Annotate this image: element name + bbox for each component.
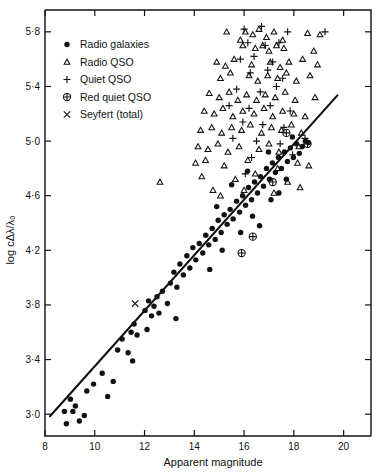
point-radio-galaxy xyxy=(100,370,105,375)
point-radio-qso xyxy=(221,163,227,168)
point-radio-qso xyxy=(311,48,317,53)
point-radio-qso xyxy=(282,89,288,94)
point-radio-galaxy xyxy=(73,403,78,408)
point-quiet-qso xyxy=(64,76,71,83)
y-tick-label: 3·8 xyxy=(26,299,41,310)
point-radio-qso xyxy=(286,59,292,64)
y-tick-label: 4·6 xyxy=(26,190,41,201)
point-radio-qso xyxy=(232,176,238,181)
point-radio-qso xyxy=(245,157,251,162)
point-radio-qso xyxy=(250,32,256,37)
point-radio-galaxy xyxy=(64,42,69,47)
point-radio-qso xyxy=(219,130,225,135)
point-radio-galaxy xyxy=(193,257,198,262)
point-radio-galaxy xyxy=(156,310,161,315)
point-radio-qso xyxy=(198,127,204,132)
point-radio-galaxy xyxy=(115,347,120,352)
point-radio-galaxy xyxy=(197,241,202,246)
point-radio-galaxy xyxy=(290,134,295,139)
point-radio-galaxy xyxy=(125,350,130,355)
point-radio-galaxy xyxy=(174,284,179,289)
point-radio-galaxy xyxy=(221,212,226,217)
point-radio-qso xyxy=(255,78,261,83)
point-radio-qso xyxy=(315,62,321,67)
y-tick-label: 5·4 xyxy=(26,81,41,92)
point-radio-qso xyxy=(211,111,217,116)
point-radio-galaxy xyxy=(184,253,189,258)
point-radio-galaxy xyxy=(243,203,248,208)
fit-line xyxy=(50,95,337,416)
x-tick-label: 12 xyxy=(139,441,151,452)
point-radio-galaxy xyxy=(203,233,208,238)
point-radio-galaxy xyxy=(190,245,195,250)
point-radio-qso xyxy=(247,122,253,127)
point-radio-qso xyxy=(224,29,230,34)
point-radio-qso xyxy=(218,75,224,80)
point-radio-qso xyxy=(293,78,299,83)
point-quiet-qso xyxy=(233,86,240,93)
point-radio-qso xyxy=(288,122,294,127)
point-radio-galaxy xyxy=(151,304,156,309)
point-radio-qso xyxy=(271,190,277,195)
y-tick-label: 5·0 xyxy=(26,136,41,147)
point-radio-galaxy xyxy=(229,182,234,187)
point-radio-qso xyxy=(269,125,275,130)
y-axis-ticks: 3·03·43·84·24·65·05·45·8 xyxy=(26,26,371,419)
point-radio-qso xyxy=(246,73,252,78)
point-radio-galaxy xyxy=(238,230,243,235)
y-tick-label: 5·8 xyxy=(26,26,41,37)
y-tick-label: 3·4 xyxy=(26,354,41,365)
point-radio-galaxy xyxy=(144,327,149,332)
point-radio-qso xyxy=(256,146,262,151)
point-seyfert xyxy=(132,300,138,306)
point-radio-galaxy xyxy=(214,204,219,209)
point-radio-galaxy xyxy=(234,198,239,203)
point-radio-galaxy xyxy=(224,222,229,227)
point-radio-galaxy xyxy=(105,394,110,399)
point-radio-qso xyxy=(276,149,282,154)
point-quiet-qso xyxy=(237,56,244,63)
point-quiet-qso xyxy=(251,53,258,60)
point-radio-qso xyxy=(317,32,323,37)
point-radio-galaxy xyxy=(246,185,251,190)
point-radio-galaxy xyxy=(181,272,186,277)
point-quiet-qso xyxy=(253,138,260,145)
point-radio-galaxy xyxy=(252,179,257,184)
point-radio-qso xyxy=(264,34,270,39)
point-radio-galaxy xyxy=(255,190,260,195)
y-axis-title: log cΔλ/λ₀ xyxy=(4,215,16,264)
point-radio-galaxy xyxy=(218,230,223,235)
series-seyfert-total- xyxy=(132,300,138,306)
point-radio-qso xyxy=(206,90,212,95)
point-radio-galaxy xyxy=(171,269,176,274)
point-quiet-qso xyxy=(257,88,264,95)
point-radio-qso xyxy=(302,114,308,119)
point-radio-qso xyxy=(240,108,246,113)
point-radio-qso xyxy=(266,141,272,146)
point-radio-qso xyxy=(305,30,311,35)
point-radio-qso xyxy=(292,97,298,102)
point-radio-galaxy xyxy=(291,155,296,160)
legend-label-seyfert-total-: Seyfert (total) xyxy=(80,108,143,120)
point-quiet-qso xyxy=(277,140,284,147)
point-radio-qso xyxy=(225,149,231,154)
point-radio-galaxy xyxy=(206,242,211,247)
legend-label-quiet-qso: Quiet QSO xyxy=(80,73,131,85)
point-radio-galaxy xyxy=(250,213,255,218)
x-tick-label: 8 xyxy=(42,441,48,452)
x-tick-label: 20 xyxy=(338,441,350,452)
point-radio-qso xyxy=(284,70,290,75)
point-quiet-qso xyxy=(259,121,266,128)
point-radio-qso xyxy=(271,29,277,34)
point-radio-qso xyxy=(244,92,250,97)
point-radio-qso xyxy=(201,108,207,113)
point-radio-qso xyxy=(280,108,286,113)
point-radio-qso xyxy=(280,37,286,42)
point-radio-galaxy xyxy=(237,209,242,214)
point-radio-qso xyxy=(230,114,236,119)
point-radio-qso xyxy=(203,157,209,162)
point-radio-qso xyxy=(249,62,255,67)
x-tick-label: 10 xyxy=(89,441,101,452)
point-radio-qso xyxy=(229,125,235,130)
point-radio-galaxy xyxy=(68,396,73,401)
